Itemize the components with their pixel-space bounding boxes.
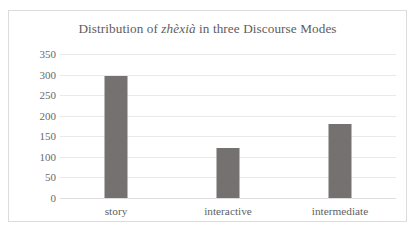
y-axis-tick-label: 150: [12, 131, 56, 142]
bar-story[interactable]: [105, 76, 128, 198]
chart-title-text-before: Distribution of: [78, 21, 161, 36]
x-axis-tick-label-interactive: interactive: [204, 205, 252, 217]
y-axis-tick-label: 250: [12, 90, 56, 101]
bar-slot: [172, 54, 284, 198]
y-axis-labels: 050100150200250300350: [9, 54, 56, 198]
chart-title-italic-term: zhèxià: [161, 21, 195, 36]
y-axis-tick-label: 0: [12, 193, 56, 204]
chart-title: Distribution of zhèxià in three Discours…: [9, 21, 406, 37]
y-axis-tick-label: 350: [12, 49, 56, 60]
y-axis-tick-label: 50: [12, 172, 56, 183]
x-axis-tick-label-story: story: [105, 205, 128, 217]
gridline: [60, 198, 396, 199]
chart-figure: Distribution of zhèxià in three Discours…: [8, 10, 407, 222]
x-axis-labels: storyinteractiveintermediate: [60, 201, 396, 223]
bar-slot: [60, 54, 172, 198]
y-axis-tick-label: 300: [12, 69, 56, 80]
bar-interactive[interactable]: [217, 148, 240, 198]
x-axis-tick-label-intermediate: intermediate: [312, 205, 368, 217]
plot-area: [60, 54, 396, 198]
y-axis-tick-label: 200: [12, 110, 56, 121]
bar-slot: [284, 54, 396, 198]
y-axis-tick-label: 100: [12, 151, 56, 162]
chart-title-text-after: in three Discourse Modes: [196, 21, 337, 36]
bar-intermediate[interactable]: [329, 124, 352, 198]
